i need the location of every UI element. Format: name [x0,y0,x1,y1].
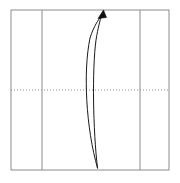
canvas-background [0,0,180,183]
diagram-svg [0,0,180,183]
diagram-canvas [0,0,180,183]
